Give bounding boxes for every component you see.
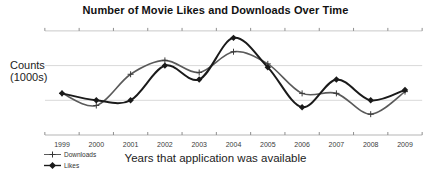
downloads-point-marker bbox=[333, 90, 339, 96]
downloads-line bbox=[62, 52, 405, 115]
x-tick-label: 2005 bbox=[260, 141, 276, 148]
downloads-point-marker bbox=[299, 90, 305, 96]
downloads-point-marker bbox=[368, 111, 374, 117]
likes-point-marker bbox=[230, 35, 236, 41]
x-tick-label: 2008 bbox=[363, 141, 379, 148]
y-axis-label: Counts (1000s) bbox=[10, 59, 47, 83]
likes-point-marker bbox=[368, 97, 374, 103]
downloads-point-marker bbox=[196, 70, 202, 76]
likes-point-marker bbox=[162, 62, 168, 68]
x-tick-label: 2002 bbox=[157, 141, 173, 148]
chart-window: Number of Movie Likes and Downloads Over… bbox=[0, 0, 431, 183]
x-tick-label: 2000 bbox=[89, 141, 105, 148]
likes-point-marker bbox=[93, 97, 99, 103]
likes-line bbox=[62, 38, 405, 108]
x-tick-label: 2004 bbox=[226, 141, 242, 148]
likes-point-marker bbox=[333, 76, 339, 82]
downloads-point-marker bbox=[231, 49, 237, 55]
x-axis-label: Years that application was available bbox=[0, 152, 431, 164]
x-tick-label: 2007 bbox=[329, 141, 345, 148]
likes-point-marker bbox=[299, 104, 305, 110]
likes-point-marker bbox=[402, 87, 408, 93]
y-axis-label-line1: Counts bbox=[10, 59, 47, 71]
likes-point-marker bbox=[59, 90, 65, 96]
y-axis-label-line2: (1000s) bbox=[10, 71, 47, 83]
x-tick-label: 2009 bbox=[397, 141, 413, 148]
x-tick-label: 1999 bbox=[54, 141, 70, 148]
x-tick-label: 2006 bbox=[294, 141, 310, 148]
x-tick-label: 2001 bbox=[123, 141, 139, 148]
x-tick-label: 2003 bbox=[191, 141, 207, 148]
